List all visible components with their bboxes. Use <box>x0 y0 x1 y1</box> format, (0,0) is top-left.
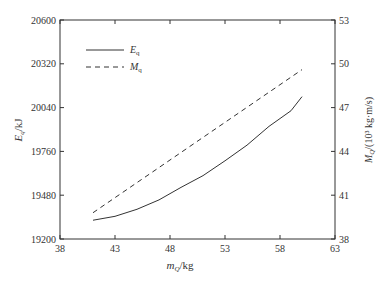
plot-frame <box>60 20 335 239</box>
right-y-axis-label: MQ/(10³ kg·m/s) <box>363 97 376 164</box>
series-lines <box>93 70 302 221</box>
right-y-tick-label: 47 <box>339 102 349 113</box>
right-y-axis-ticks: 384144475053 <box>331 15 349 245</box>
left-y-tick-label: 19760 <box>31 146 56 157</box>
right-y-tick-label: 53 <box>339 15 349 26</box>
x-tick-label: 58 <box>275 243 285 254</box>
left-y-axis-ticks: 192001948019760200402032020600 <box>31 15 64 245</box>
left-y-tick-label: 19200 <box>31 234 56 245</box>
series-m-q-dashed <box>93 70 302 213</box>
series-e-q-solid <box>93 97 302 221</box>
left-y-tick-label: 20600 <box>31 15 56 26</box>
x-axis-label: mQ/kg <box>166 259 194 273</box>
legend: Eq Mq <box>86 44 142 74</box>
left-y-axis-label: Eq/kJ <box>12 118 26 143</box>
right-y-tick-label: 41 <box>339 190 349 201</box>
left-y-tick-label: 20040 <box>31 102 56 113</box>
left-y-tick-label: 20320 <box>31 58 56 69</box>
x-tick-label: 38 <box>55 243 65 254</box>
x-tick-label: 43 <box>110 243 120 254</box>
right-y-tick-label: 44 <box>339 146 349 157</box>
dual-axis-line-chart: 384348535863 192001948019760200402032020… <box>0 0 381 284</box>
legend-m-q-label: Mq <box>129 61 142 74</box>
legend-e-q-label: Eq <box>129 44 140 57</box>
right-y-tick-label: 50 <box>339 58 349 69</box>
right-y-tick-label: 38 <box>339 234 349 245</box>
x-tick-label: 53 <box>220 243 230 254</box>
left-y-tick-label: 19480 <box>31 190 56 201</box>
x-tick-label: 63 <box>330 243 340 254</box>
x-tick-label: 48 <box>165 243 175 254</box>
